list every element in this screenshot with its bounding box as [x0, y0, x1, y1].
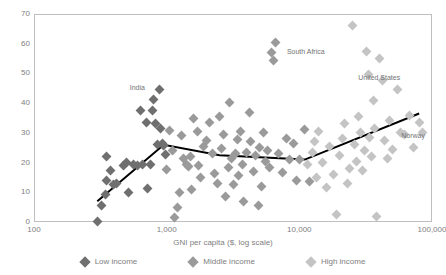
legend-diamond-icon [305, 256, 316, 267]
data-point [382, 153, 392, 163]
data-point [187, 185, 197, 195]
y-axis-tick-label: 40 [2, 99, 30, 107]
point-annotation: United States [358, 74, 400, 82]
data-point [371, 211, 381, 221]
data-point [314, 126, 324, 136]
y-axis-tick-label: 30 [2, 129, 30, 137]
data-point [143, 183, 153, 193]
data-point [141, 118, 151, 128]
data-point [408, 143, 418, 153]
y-axis-tick-labels: 010203040506070 [0, 14, 30, 222]
trend-line [34, 14, 432, 222]
x-axis-tick-label: 10,000 [287, 226, 311, 234]
data-point [387, 144, 397, 154]
data-point [321, 183, 331, 193]
data-point [347, 21, 357, 31]
data-point [414, 118, 424, 128]
data-point [149, 94, 159, 104]
data-point [270, 37, 280, 47]
x-axis-tick-label: 1,000 [157, 226, 177, 234]
x-axis-tick-labels: 1001,00010,000100,000 [34, 226, 432, 238]
data-point [221, 192, 231, 202]
point-annotation: Norway [401, 132, 425, 140]
data-point [210, 168, 220, 178]
data-point [217, 144, 227, 154]
x-axis-tick-label: 100,000 [418, 226, 446, 234]
data-point [263, 146, 273, 156]
data-point [215, 112, 225, 122]
data-point [194, 161, 204, 171]
data-point [223, 163, 233, 173]
data-point [189, 114, 199, 124]
legend-diamond-icon [188, 256, 199, 267]
data-point [248, 167, 258, 177]
plot-area: IndiaSouth AfricaUnited StatesNorway [34, 14, 432, 222]
data-point [92, 216, 102, 226]
data-point [246, 137, 256, 147]
data-point [405, 110, 415, 120]
data-point [374, 54, 384, 64]
data-point [278, 168, 288, 178]
data-point [100, 190, 110, 200]
data-point [334, 150, 344, 160]
data-point [352, 156, 362, 166]
data-point [234, 171, 244, 181]
data-point [165, 126, 175, 136]
x-axis-tick-label: 100 [27, 226, 40, 234]
data-point [367, 152, 377, 162]
x-axis-title: GNI per capita ($, log scale) [0, 238, 446, 248]
y-axis-tick-label: 10 [2, 188, 30, 196]
data-point [354, 112, 364, 122]
data-point [302, 159, 312, 169]
data-point [192, 127, 202, 137]
legend-item[interactable]: Middle income [189, 258, 255, 266]
data-point [229, 180, 239, 190]
y-axis-tick-label: 20 [2, 159, 30, 167]
scatter-chart: 010203040506070 IndiaSouth AfricaUnited … [0, 0, 446, 275]
data-point [331, 210, 341, 220]
legend-item[interactable]: Low income [81, 258, 138, 266]
data-point [342, 178, 352, 188]
data-point [204, 118, 214, 128]
data-point [358, 165, 368, 175]
data-point [368, 95, 378, 105]
data-point [102, 151, 112, 161]
data-point [170, 213, 180, 223]
data-point [349, 140, 359, 150]
legend-label: High income [321, 258, 365, 266]
data-point [162, 165, 172, 175]
data-point [325, 141, 335, 151]
data-point [365, 132, 375, 142]
legend-item[interactable]: High income [307, 258, 365, 266]
data-point [219, 130, 229, 140]
data-point [244, 107, 254, 117]
data-point [361, 46, 371, 56]
data-point [96, 201, 106, 211]
y-axis-tick-label: 70 [2, 10, 30, 18]
data-point [259, 128, 269, 138]
data-point [146, 159, 156, 169]
data-point [328, 170, 338, 180]
data-point [345, 164, 355, 174]
y-axis-tick-label: 0 [2, 218, 30, 226]
data-point [239, 196, 249, 206]
chart-legend: Low incomeMiddle incomeHigh income [0, 252, 446, 272]
data-point [106, 165, 116, 175]
data-point [385, 116, 395, 126]
y-axis-tick-label: 60 [2, 40, 30, 48]
legend-diamond-icon [79, 256, 90, 267]
data-point [370, 123, 380, 133]
data-point [124, 187, 134, 197]
y-axis-tick-label: 50 [2, 69, 30, 77]
data-point [225, 98, 235, 108]
data-point [380, 135, 390, 145]
data-point [274, 149, 284, 159]
data-point [307, 147, 317, 157]
data-point [147, 105, 157, 115]
data-point [175, 188, 185, 198]
data-point [196, 172, 206, 182]
data-point [340, 119, 350, 129]
point-annotation: India [130, 84, 145, 92]
data-point [285, 155, 295, 165]
legend-label: Low income [95, 258, 138, 266]
